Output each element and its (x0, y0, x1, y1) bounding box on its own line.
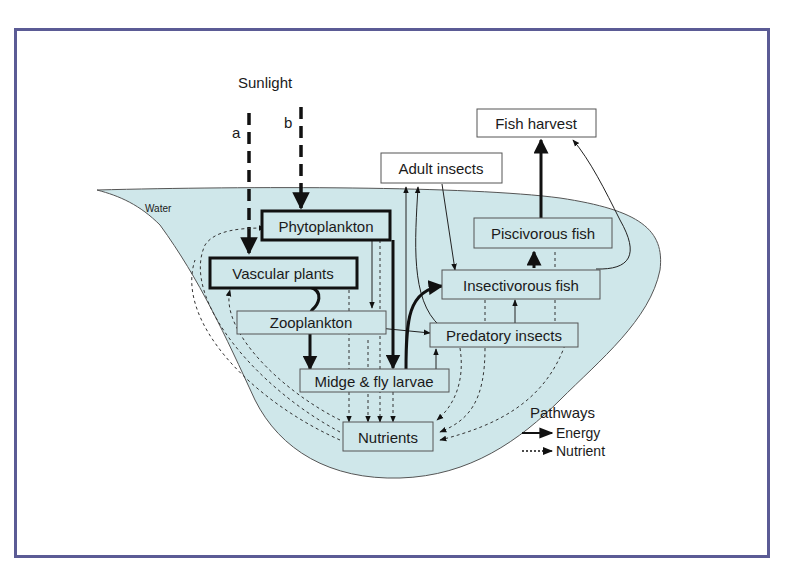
food-web-diagram: Water Sunlight a b Fish harvest Adult in… (0, 0, 790, 583)
svg-text:Adult insects: Adult insects (398, 160, 483, 177)
sunlight-label: Sunlight (238, 74, 293, 91)
svg-text:Zooplankton: Zooplankton (270, 314, 353, 331)
node-phytoplankton: Phytoplankton (262, 211, 390, 240)
svg-text:Piscivorous fish: Piscivorous fish (491, 225, 595, 242)
svg-text:Insectivorous fish: Insectivorous fish (463, 277, 579, 294)
path-a-label: a (232, 124, 241, 141)
svg-text:Fish harvest: Fish harvest (495, 115, 578, 132)
water-label: Water (145, 203, 172, 214)
node-predatory-insects: Predatory insects (430, 323, 578, 347)
svg-text:Midge & fly larvae: Midge & fly larvae (314, 373, 433, 390)
svg-text:Phytoplankton: Phytoplankton (278, 218, 373, 235)
node-zooplankton: Zooplankton (237, 311, 386, 334)
svg-text:Vascular plants: Vascular plants (232, 265, 333, 282)
legend-energy-label: Energy (556, 425, 600, 441)
node-vascular-plants: Vascular plants (210, 258, 357, 288)
legend-nutrient-label: Nutrient (556, 443, 605, 459)
path-b-label: b (284, 114, 292, 131)
node-midge-fly-larvae: Midge & fly larvae (300, 369, 449, 392)
node-piscivorous-fish: Piscivorous fish (474, 218, 612, 248)
node-insectivorous-fish: Insectivorous fish (442, 270, 600, 299)
node-nutrients: Nutrients (343, 422, 433, 451)
node-adult-insects: Adult insects (381, 153, 502, 183)
svg-text:Predatory insects: Predatory insects (446, 327, 562, 344)
legend-title: Pathways (530, 404, 595, 421)
legend: Pathways Energy Nutrient (522, 404, 605, 459)
node-fish-harvest: Fish harvest (477, 109, 596, 137)
svg-text:Nutrients: Nutrients (358, 429, 418, 446)
